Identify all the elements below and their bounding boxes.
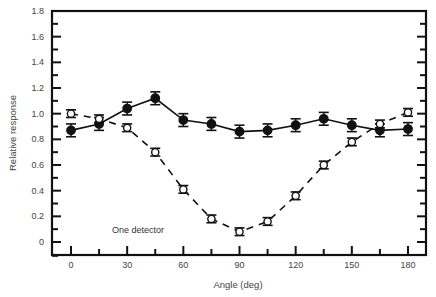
y-tick-label: 0.2 [31, 211, 44, 221]
x-axis: 0306090120150180 [68, 246, 415, 270]
x-tick-label: 60 [178, 260, 188, 270]
data-point [291, 121, 299, 129]
y-tick-label: 1.6 [31, 32, 44, 42]
data-point [320, 115, 328, 123]
y-axis: 00.20.40.60.81.01.21.41.61.8 [31, 6, 426, 256]
data-point [264, 218, 271, 225]
data-point [263, 126, 271, 134]
x-tick-label: 180 [400, 260, 415, 270]
y-tick-label: 1.8 [31, 6, 44, 16]
data-point [123, 104, 131, 112]
x-axis-label: Angle (deg) [213, 279, 262, 290]
data-point [124, 124, 131, 131]
data-point [235, 127, 243, 135]
y-tick-label: 0.8 [31, 134, 44, 144]
y-tick-label: 0.4 [31, 186, 44, 196]
y-tick-label: 0.6 [31, 160, 44, 170]
y-tick-label: 1.2 [31, 83, 44, 93]
y-tick-label: 1.0 [31, 109, 44, 119]
data-point [207, 120, 215, 128]
data-point [179, 116, 187, 124]
data-point [95, 115, 102, 122]
chart: 00.20.40.60.81.01.21.41.61.8 03060901201… [0, 0, 436, 297]
data-point [236, 228, 243, 235]
data-point [208, 215, 215, 222]
data-series [66, 92, 413, 236]
data-point [348, 138, 355, 145]
x-tick-label: 0 [68, 260, 73, 270]
y-tick-label: 1.4 [31, 57, 44, 67]
data-point [404, 125, 412, 133]
filled-series [66, 92, 413, 138]
data-point [151, 94, 159, 102]
data-point [376, 120, 383, 127]
x-tick-label: 30 [122, 260, 132, 270]
data-point [348, 121, 356, 129]
one-detector-annotation: One detector [112, 225, 164, 235]
data-point [180, 186, 187, 193]
x-tick-label: 120 [288, 260, 303, 270]
data-point [67, 126, 75, 134]
data-point [320, 161, 327, 168]
y-tick-label: 0 [39, 237, 44, 247]
data-point [292, 192, 299, 199]
y-axis-label: Relative response [7, 95, 18, 171]
data-point [404, 109, 411, 116]
data-point [152, 149, 159, 156]
x-tick-label: 90 [234, 260, 244, 270]
data-point [67, 110, 74, 117]
x-tick-label: 150 [344, 260, 359, 270]
